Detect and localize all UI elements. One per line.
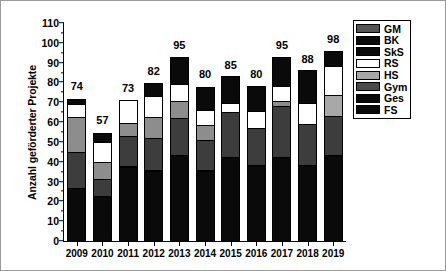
bar-segment-fs[interactable] xyxy=(119,167,138,242)
bar-segment-sks[interactable] xyxy=(247,86,266,112)
legend-item-fs[interactable]: FS xyxy=(356,104,407,116)
bar-segment-rs[interactable] xyxy=(93,142,112,164)
legend-item-rs[interactable]: RS xyxy=(356,58,407,70)
stacked-bar[interactable] xyxy=(298,67,317,241)
stacked-bar[interactable] xyxy=(221,73,240,241)
bar-segment-fs[interactable] xyxy=(196,171,215,242)
stacked-bar[interactable] xyxy=(324,47,343,241)
stacked-bar[interactable] xyxy=(93,128,112,241)
stacked-bar[interactable] xyxy=(170,53,189,241)
bar-segment-gym[interactable] xyxy=(144,117,163,139)
bar-segment-sks[interactable] xyxy=(221,76,240,104)
legend-item-gm[interactable]: GM xyxy=(356,23,407,35)
bar-total-label: 88 xyxy=(301,53,313,65)
bar-segment-hs[interactable] xyxy=(324,95,343,117)
bar-segment-ges[interactable] xyxy=(67,152,86,190)
bar-column[interactable]: 802016 xyxy=(243,23,269,241)
bar-segment-rs[interactable] xyxy=(247,111,266,129)
stacked-bar[interactable] xyxy=(196,82,215,241)
bar-segment-ges[interactable] xyxy=(324,116,343,156)
bar-total-label: 80 xyxy=(199,68,211,80)
bar-segment-rs[interactable] xyxy=(324,66,343,96)
bar-segment-gym[interactable] xyxy=(170,101,189,119)
bar-segment-gym[interactable] xyxy=(196,125,215,141)
bar-column[interactable]: 822012 xyxy=(141,23,167,241)
bar-segment-sks[interactable] xyxy=(144,83,163,97)
legend-swatch xyxy=(356,47,380,56)
x-axis-tick-mark xyxy=(333,241,334,246)
bar-column[interactable]: 742009 xyxy=(64,23,90,241)
legend-item-hs[interactable]: HS xyxy=(356,69,407,81)
bar-segment-fs[interactable] xyxy=(93,196,112,242)
bar-segment-fs[interactable] xyxy=(247,165,266,242)
bar-segment-ges[interactable] xyxy=(119,136,138,168)
bar-segment-ges[interactable] xyxy=(272,106,291,158)
legend-swatch xyxy=(356,94,380,103)
bar-segment-rs[interactable] xyxy=(272,86,291,102)
bar-segment-sks[interactable] xyxy=(298,70,317,104)
bar-segment-rs[interactable] xyxy=(144,96,163,118)
bar-segment-ges[interactable] xyxy=(247,128,266,166)
bar-column[interactable]: 952013 xyxy=(167,23,193,241)
bar-segment-fs[interactable] xyxy=(221,157,240,242)
bar-segment-ges[interactable] xyxy=(144,138,163,172)
x-axis-tick-label: 2018 xyxy=(296,248,318,259)
bar-segment-ges[interactable] xyxy=(170,118,189,156)
bar-segment-ges[interactable] xyxy=(93,179,112,197)
bar-total-label: 80 xyxy=(250,68,262,80)
x-axis-tick-mark xyxy=(205,241,206,246)
bar-total-label: 73 xyxy=(122,82,134,94)
legend-item-gym[interactable]: Gym xyxy=(356,81,407,93)
legend-label: Gym xyxy=(384,82,407,93)
bar-column[interactable]: 572010 xyxy=(90,23,116,241)
bar-segment-rs[interactable] xyxy=(119,100,138,124)
bar-segment-sks[interactable] xyxy=(196,87,215,111)
bar-segment-fs[interactable] xyxy=(298,165,317,242)
bar-column[interactable]: 852015 xyxy=(218,23,244,241)
bar-segment-ges[interactable] xyxy=(196,140,215,172)
bar-segment-sks[interactable] xyxy=(324,51,343,67)
bar-segment-fs[interactable] xyxy=(170,155,189,242)
legend-swatch xyxy=(356,82,380,91)
x-axis-tick-label: 2009 xyxy=(66,248,88,259)
legend-swatch xyxy=(356,59,380,68)
bar-segment-fs[interactable] xyxy=(144,171,163,242)
bar-column[interactable]: 802014 xyxy=(192,23,218,241)
x-axis-tick-label: 2012 xyxy=(143,248,165,259)
legend-swatch xyxy=(356,24,380,33)
bar-total-label: 74 xyxy=(71,80,83,92)
bar-segment-sks[interactable] xyxy=(170,57,189,85)
legend-swatch xyxy=(356,71,380,80)
bar-segment-fs[interactable] xyxy=(324,155,343,242)
stacked-bar[interactable] xyxy=(247,82,266,241)
bar-segment-rs[interactable] xyxy=(67,104,86,118)
stacked-bar[interactable] xyxy=(119,96,138,241)
stacked-bar[interactable] xyxy=(272,53,291,241)
legend-item-sks[interactable]: SkS xyxy=(356,46,407,58)
bar-column[interactable]: 732011 xyxy=(115,23,141,241)
legend-swatch xyxy=(356,36,380,45)
bar-column[interactable]: 882018 xyxy=(295,23,321,241)
stacked-bar[interactable] xyxy=(67,94,86,241)
legend-item-ges[interactable]: Ges xyxy=(356,93,407,105)
bar-segment-gym[interactable] xyxy=(93,162,112,180)
bar-column[interactable]: 982019 xyxy=(320,23,346,241)
x-axis-tick-mark xyxy=(102,241,103,246)
x-axis-tick-mark xyxy=(308,241,309,246)
stacked-bar[interactable] xyxy=(144,79,163,242)
legend-item-bk[interactable]: BK xyxy=(356,35,407,47)
x-axis-tick-mark xyxy=(282,241,283,246)
bar-segment-gym[interactable] xyxy=(119,123,138,137)
bar-column[interactable]: 952017 xyxy=(269,23,295,241)
bar-segment-fs[interactable] xyxy=(67,188,86,242)
plot-area: Anzahl geförderter Projekte 010203040506… xyxy=(63,23,346,242)
bar-group: 7420095720107320118220129520138020148520… xyxy=(64,23,346,241)
bar-segment-fs[interactable] xyxy=(272,157,291,242)
bar-segment-ges[interactable] xyxy=(221,112,240,158)
bar-segment-rs[interactable] xyxy=(170,84,189,102)
bar-segment-ges[interactable] xyxy=(298,124,317,166)
bar-segment-sks[interactable] xyxy=(272,57,291,87)
bar-segment-gym[interactable] xyxy=(67,117,86,153)
bar-segment-rs[interactable] xyxy=(298,103,317,125)
bar-segment-rs[interactable] xyxy=(196,110,215,126)
